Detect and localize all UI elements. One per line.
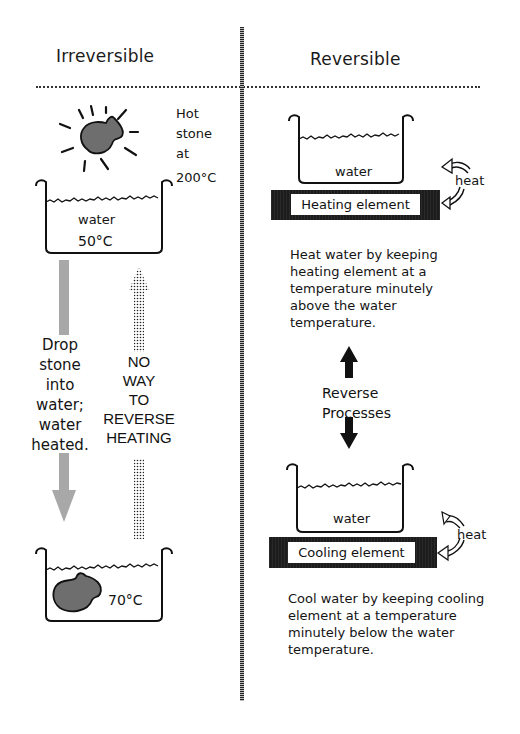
- beaker-bottom-icon: [34, 546, 174, 626]
- reverse-up-arrow-icon: [339, 346, 359, 380]
- reversible-title: Reversible: [310, 49, 401, 69]
- beaker-top-label: water: [78, 211, 115, 228]
- no-way-label: NO WAY TO REVERSE HEATING: [96, 352, 182, 447]
- cooling-beaker-label: water: [333, 510, 370, 527]
- beaker-heating-icon: [287, 113, 427, 193]
- hot-stone-label: Hot stone at 200°C: [176, 104, 216, 188]
- hot-stone-icon: [46, 104, 146, 184]
- heating-beaker-label: water: [335, 163, 372, 180]
- beaker-top-temperature: 50°C: [78, 233, 113, 250]
- heating-heat-label: heat: [455, 172, 484, 189]
- heating-element-label: Heating element: [291, 194, 420, 215]
- cooling-element: Cooling element: [269, 537, 437, 568]
- drop-stone-label: Drop stone into water; water heated.: [24, 335, 96, 455]
- heating-element: Heating element: [271, 190, 440, 220]
- reverse-down-arrow-icon: [339, 417, 359, 451]
- cooling-element-label: Cooling element: [288, 542, 415, 563]
- irreversible-title: Irreversible: [56, 46, 154, 66]
- vertical-divider: [240, 27, 244, 701]
- horizontal-divider: [36, 86, 480, 88]
- cooling-description: Cool water by keeping cooling element at…: [288, 590, 488, 658]
- cooling-heat-label: heat: [457, 526, 486, 543]
- beaker-bottom-temperature: 70°C: [108, 592, 143, 609]
- beaker-cooling-icon: [285, 462, 425, 542]
- heating-description: Heat water by keeping heating element at…: [290, 246, 440, 331]
